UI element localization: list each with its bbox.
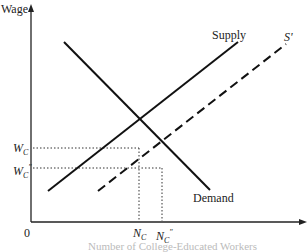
supply-shifted-label: S': [284, 31, 293, 43]
x-axis-label: Number of College-Educated Workers: [88, 240, 257, 252]
origin-label: 0: [24, 227, 30, 239]
wc-tick-label: WC: [13, 142, 28, 159]
wc-double-prime-tick-label: WC": [13, 162, 32, 182]
x-axis-arrow-icon: [299, 219, 307, 225]
y-axis-label: Wage: [1, 3, 28, 15]
demand-label: Demand: [193, 192, 234, 204]
guide-lines: [33, 148, 162, 221]
supply-label: Supply: [212, 29, 246, 41]
y-axis-arrow-icon: [28, 4, 34, 12]
supply-curve: [48, 42, 238, 191]
supply-shifted-curve: [98, 44, 286, 191]
